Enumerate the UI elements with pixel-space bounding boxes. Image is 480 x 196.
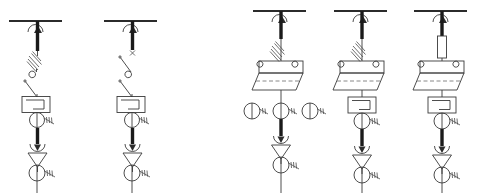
disconnect-switch-icon[interactable]	[24, 80, 37, 97]
current-transformer-right-icon	[302, 103, 326, 119]
current-transformer-icon	[125, 113, 150, 128]
panel-4-group[interactable]	[333, 11, 387, 193]
circuit-breaker-icon[interactable]	[348, 97, 376, 113]
circuit-breaker-icon[interactable]	[22, 97, 50, 113]
circuit-breaker-icon[interactable]	[117, 97, 145, 113]
current-transformer-2-icon	[124, 165, 150, 181]
earthing-arrow-icon	[435, 146, 450, 154]
earthing-arrow-icon	[274, 136, 289, 144]
earthing-arrow-icon	[125, 144, 140, 152]
withdrawable-truck-icon[interactable]	[252, 60, 303, 103]
panel-3-group[interactable]	[244, 11, 326, 193]
circuit-breaker-icon[interactable]	[428, 97, 456, 113]
earthing-arrow-icon	[30, 144, 45, 152]
panel-5-group[interactable]	[413, 11, 467, 193]
current-transformer-center-icon	[273, 103, 297, 119]
fault-marker-icon	[130, 51, 135, 56]
panel-1-group[interactable]	[9, 21, 62, 193]
earthing-arrow-icon	[355, 146, 370, 154]
withdrawable-truck-icon[interactable]	[333, 60, 384, 97]
disconnect-switch-icon[interactable]	[119, 56, 131, 72]
panel-2-group[interactable]	[104, 21, 157, 193]
disconnect-switch-2-icon[interactable]	[119, 80, 132, 97]
single-line-diagram-canvas	[0, 0, 480, 196]
fuse-icon	[351, 42, 366, 62]
withdrawable-truck-icon[interactable]	[413, 61, 464, 97]
current-transformer-2-icon	[354, 167, 380, 183]
fuse-icon	[27, 52, 42, 72]
current-transformer-left-icon	[244, 103, 268, 119]
fuse-icon	[270, 42, 285, 62]
current-transformer-icon	[434, 113, 460, 129]
current-transformer-icon	[30, 113, 55, 128]
current-transformer-2-icon	[273, 157, 299, 173]
fuse-cartridge-icon	[438, 36, 447, 61]
contact-loop-icon	[29, 71, 36, 78]
current-transformer-2-icon	[434, 167, 460, 183]
current-transformer-2-icon	[29, 165, 55, 181]
single-line-diagram-svg	[0, 0, 480, 196]
current-transformer-icon	[354, 113, 380, 129]
